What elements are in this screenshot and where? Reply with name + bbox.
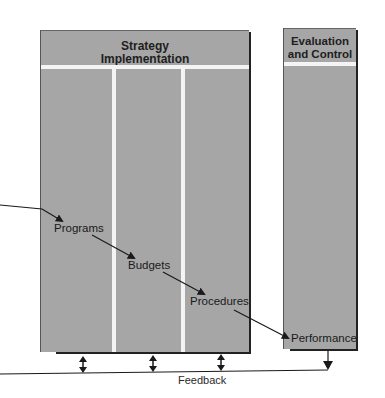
feedback-label: Feedback [178, 374, 226, 386]
node-performance: Performance [291, 332, 357, 344]
double-arrow-1 [79, 356, 87, 373]
node-programs: Programs [54, 222, 104, 234]
double-arrow-3 [217, 354, 225, 371]
performance-down-arrowhead [323, 361, 333, 370]
node-procedures: Procedures [190, 295, 249, 307]
arrow-procedures-to-performance [234, 310, 288, 338]
arrow-programs-to-budgets [92, 235, 134, 258]
arrow-budgets-to-procedures [163, 272, 204, 294]
double-arrow-2 [149, 355, 157, 372]
arrow-to-programs [0, 205, 62, 221]
node-budgets: Budgets [128, 259, 170, 271]
feedback-line [0, 370, 328, 374]
